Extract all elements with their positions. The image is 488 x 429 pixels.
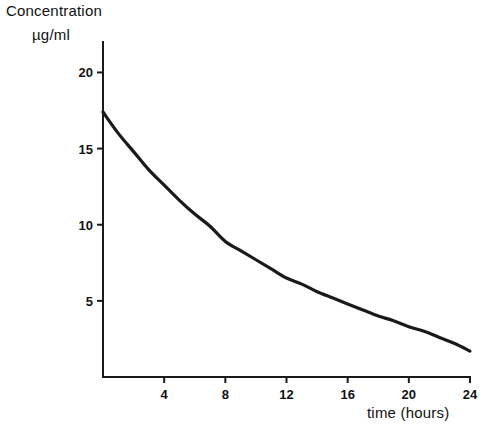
x-tick-label: 24: [463, 387, 477, 402]
y-tick-label: 10: [69, 217, 93, 232]
axis-lines: [103, 42, 470, 377]
x-tick-label: 16: [340, 387, 354, 402]
x-tick-label: 20: [402, 387, 416, 402]
y-tick-label: 15: [69, 141, 93, 156]
y-tick-label: 20: [69, 65, 93, 80]
x-tick-label: 8: [222, 387, 229, 402]
tick-marks: [97, 72, 470, 383]
x-tick-label: 4: [161, 387, 168, 402]
x-tick-label: 12: [279, 387, 293, 402]
concentration-decay-curve: [103, 112, 470, 351]
concentration-time-chart: Concentration µg/ml time (hours) 5101520…: [0, 0, 488, 429]
y-tick-label: 5: [69, 293, 93, 308]
